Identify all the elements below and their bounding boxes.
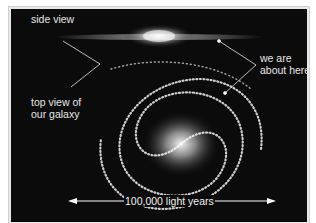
top-view-label-line2: our galaxy	[31, 108, 79, 120]
side-view-label: side view	[31, 13, 74, 25]
we-are-label-line2: about here	[260, 64, 307, 76]
location-pointer	[63, 41, 100, 87]
galaxy-panel: side view top view of our galaxy we are …	[11, 9, 307, 222]
side-view-galaxy	[54, 24, 264, 48]
top-view-label-line1: top view of	[31, 96, 81, 108]
scale-label: 100,000 light years	[124, 195, 215, 207]
we-are-label-line1: we are	[260, 52, 292, 64]
top-view-galaxy	[100, 62, 261, 209]
